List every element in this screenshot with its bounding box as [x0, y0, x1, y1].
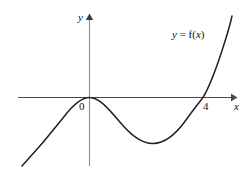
x-tick-label-4: 4 — [203, 101, 209, 112]
graph-figure: y x 0 4 y = f(x) — [0, 0, 246, 171]
y-axis-label: y — [78, 12, 83, 23]
origin-label: 0 — [79, 101, 85, 112]
curve-equation-label: y = f(x) — [172, 29, 205, 40]
curve-label-close-paren: ) — [201, 28, 205, 40]
y-axis-arrow-icon — [86, 14, 93, 21]
x-axis-label: x — [234, 101, 239, 112]
curve-label-equals: = — [177, 28, 189, 40]
y-axis — [86, 14, 93, 167]
graph-canvas — [0, 0, 246, 171]
